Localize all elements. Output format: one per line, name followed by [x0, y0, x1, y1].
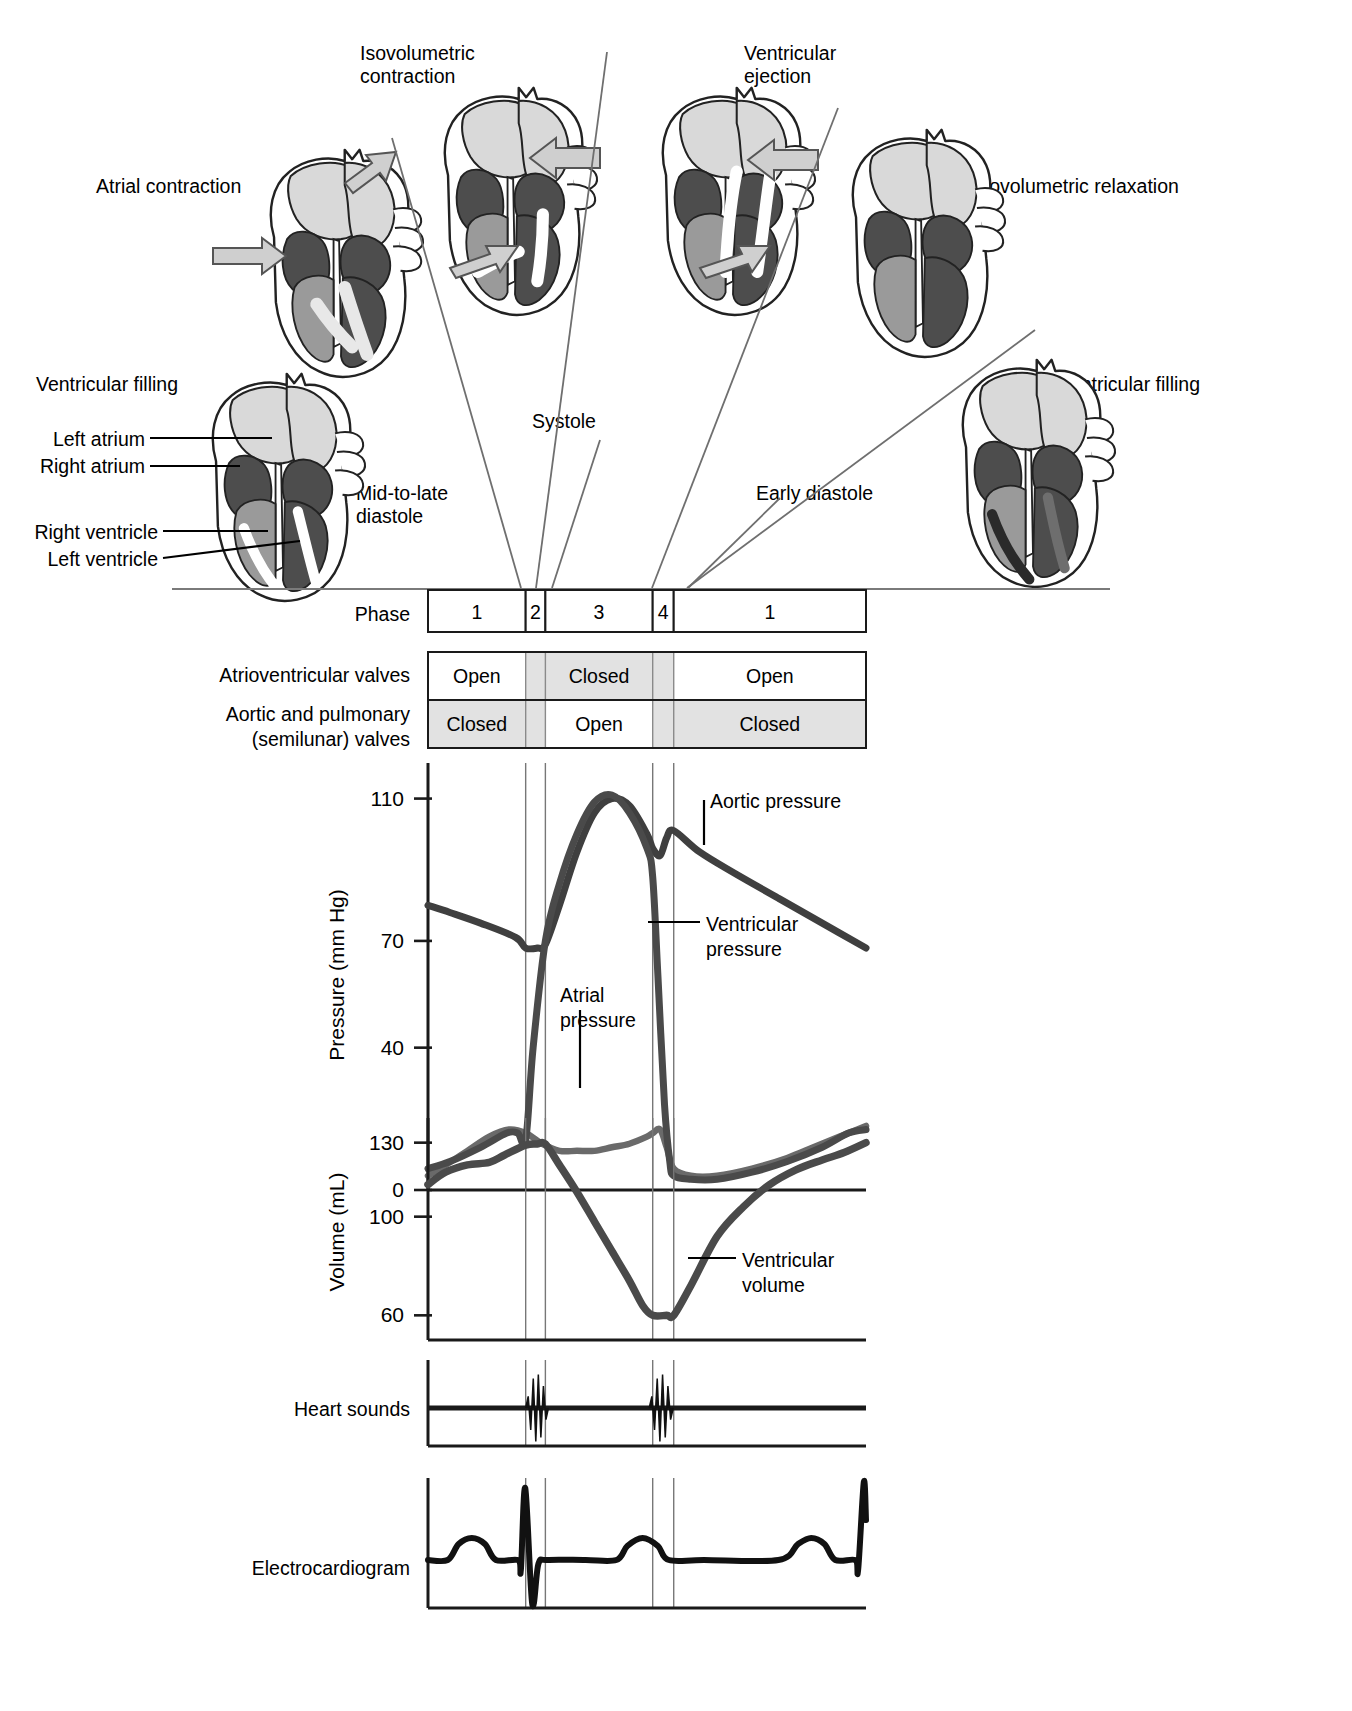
valve-cell-label-r1-s2: Open [575, 713, 623, 735]
valve-cell-r1-s1[interactable] [526, 700, 546, 748]
pressure-ytick-70: 70 [381, 929, 404, 952]
volume-ytick-130: 130 [369, 1131, 404, 1154]
valve-cell-label-r1-s0: Closed [446, 713, 507, 735]
valve-cell-label-r0-s0: Open [453, 665, 501, 687]
electrocardiogram-panel [428, 1478, 866, 1608]
valve-cell-r1-s3[interactable] [653, 700, 674, 748]
pressure-panel [414, 763, 866, 1190]
pressure-ytick-40: 40 [381, 1036, 404, 1059]
ventricular-volume-curve [428, 1142, 866, 1317]
heart-sounds-panel [428, 1360, 866, 1446]
heart-illustration-isovolumetric-contraction [445, 88, 597, 315]
phase-cell-label-0: 1 [471, 601, 482, 623]
heart-illustration-ventricular-filling-left [213, 374, 365, 601]
volume-axis-title: Volume (mL) [325, 1172, 348, 1291]
valve-cell-r0-s1[interactable] [526, 652, 546, 700]
figure-artwork: 12341 OpenClosedOpenClosedOpenClosed [0, 0, 1352, 1711]
heart-illustration-ventricular-ejection [663, 88, 815, 315]
valve-cell-r0-s3[interactable] [653, 652, 674, 700]
phase-cell-label-2: 3 [594, 601, 605, 623]
ecg-trace [428, 1481, 866, 1606]
valve-state-rows: OpenClosedOpenClosedOpenClosed [428, 652, 866, 748]
ventricular-pressure-curve [428, 794, 866, 1180]
volume-ytick-100: 100 [369, 1205, 404, 1228]
phase-row: 12341 [428, 590, 866, 632]
valve-cell-label-r1-s4: Closed [740, 713, 801, 735]
axis-labels: 04070110Pressure (mm Hg)60100130Volume (… [325, 787, 404, 1327]
volume-ytick-60: 60 [381, 1303, 404, 1326]
phase-cell-label-4: 1 [764, 601, 775, 623]
pressure-ytick-0: 0 [392, 1178, 404, 1201]
valve-cell-label-r0-s2: Closed [569, 665, 630, 687]
phase-cell-label-3: 4 [658, 601, 669, 623]
heart-illustration-isovolumetric-relaxation [853, 130, 1005, 357]
aortic-pressure-curve [428, 798, 866, 949]
pressure-axis-title: Pressure (mm Hg) [325, 889, 348, 1061]
heart-illustration-ventricular-filling-right [963, 360, 1115, 587]
valve-cell-label-r0-s4: Open [746, 665, 794, 687]
phase-cell-label-1: 2 [530, 601, 541, 623]
pressure-ytick-110: 110 [371, 787, 404, 810]
figure-canvas: Atrial contraction Isovolumetric contrac… [0, 0, 1352, 1711]
